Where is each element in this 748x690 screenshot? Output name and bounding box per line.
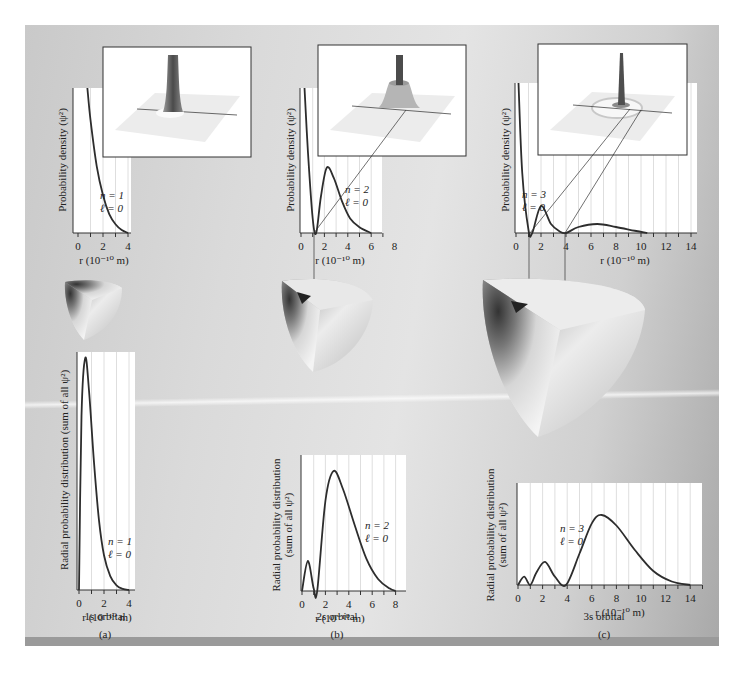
x-tick-label: 6 xyxy=(369,598,375,610)
quantum-number-n: n = 3 xyxy=(522,188,546,200)
quantum-number-l: ℓ = 0 xyxy=(345,196,369,208)
x-tick-label: 10 xyxy=(636,240,648,252)
y-axis-title: (sum of all ψ²) xyxy=(496,503,509,568)
cutaway-sphere-3s xyxy=(483,279,645,437)
y-axis-title: Probability density (ψ²) xyxy=(284,108,297,212)
y-axis-title: Probability density (ψ²) xyxy=(56,108,69,212)
x-tick-label: 6 xyxy=(368,240,374,252)
quantum-number-n: n = 2 xyxy=(365,519,389,531)
x-tick-label: 2 xyxy=(540,592,546,604)
panel-label-b: (b) xyxy=(331,628,344,641)
y-axis-title: (sum of all ψ²) xyxy=(282,493,295,558)
quantum-number-n: n = 2 xyxy=(345,183,369,195)
cutaway-sphere-2s xyxy=(282,279,373,372)
x-axis-title: r (10⁻¹⁰ m) xyxy=(600,254,650,267)
x-tick-label: 4 xyxy=(346,598,352,610)
inset-3d-surface-2s xyxy=(318,45,466,156)
quantum-number-l: ℓ = 0 xyxy=(365,532,389,544)
x-tick-label: 8 xyxy=(614,592,620,604)
y-axis-title: Probability density (ψ²) xyxy=(499,108,512,212)
quantum-number-l: ℓ = 0 xyxy=(108,548,132,560)
x-tick-label: 4 xyxy=(125,240,131,252)
x-tick-label: 6 xyxy=(589,592,595,604)
x-tick-label: 0 xyxy=(513,240,519,252)
x-tick-label: 0 xyxy=(299,598,305,610)
x-tick-label: 10 xyxy=(636,592,648,604)
x-tick-label: 8 xyxy=(392,240,398,252)
x-tick-label: 8 xyxy=(613,240,619,252)
x-axis-title: r (10⁻¹⁰ m) xyxy=(79,254,129,267)
x-tick-label: 4 xyxy=(126,597,132,609)
orbital-figure: 024r (10⁻¹⁰ m)Probability density (ψ²)n … xyxy=(0,0,748,690)
radial-plot-2s: 02468r (10⁻¹⁰ m)Radial probability distr… xyxy=(270,455,406,625)
y-axis-title: Radial probability distribution xyxy=(270,458,282,592)
quantum-number-n: n = 1 xyxy=(108,535,132,547)
x-tick-label: 6 xyxy=(588,240,594,252)
orbital-caption-1s: 1s orbital xyxy=(84,610,125,622)
orbital-caption-2s: 2s orbital xyxy=(316,610,357,622)
x-tick-label: 8 xyxy=(393,598,399,610)
x-tick-label: 14 xyxy=(685,592,697,604)
x-tick-label: 4 xyxy=(563,240,569,252)
x-tick-label: 0 xyxy=(76,597,82,609)
y-axis-title: Radial probability distribution xyxy=(484,468,496,602)
cutaway-sphere-1s xyxy=(65,280,122,340)
x-tick-label: 4 xyxy=(564,592,570,604)
x-tick-label: 2 xyxy=(538,240,544,252)
x-tick-label: 2 xyxy=(323,598,329,610)
x-tick-label: 2 xyxy=(322,240,328,252)
quantum-number-n: n = 1 xyxy=(100,189,124,201)
radial-plot-1s: 024r (10⁻¹⁰ m)Radial probability distrib… xyxy=(58,352,135,624)
x-tick-label: 2 xyxy=(100,240,106,252)
x-axis-title: r (10⁻¹⁰ m) xyxy=(315,254,365,267)
orbital-caption-3s: 3s orbital xyxy=(583,610,624,622)
panel-label-a: (a) xyxy=(99,628,112,641)
inset-3d-surface-3s xyxy=(538,44,687,155)
quantum-number-l: ℓ = 0 xyxy=(100,202,124,214)
x-tick-label: 14 xyxy=(686,240,698,252)
x-tick-label: 4 xyxy=(345,240,351,252)
radial-plot-3s: 02468101214r (10⁻¹⁰ m)Radial probability… xyxy=(484,468,703,619)
y-axis-title: Radial probability distribution (sum of … xyxy=(58,370,71,571)
x-tick-label: 0 xyxy=(75,240,81,252)
x-tick-label: 12 xyxy=(660,592,671,604)
inset-3d-surface-1s xyxy=(103,47,251,157)
quantum-number-n: n = 3 xyxy=(560,522,584,534)
x-tick-label: 0 xyxy=(515,592,521,604)
panel-label-c: (c) xyxy=(598,628,611,641)
quantum-number-l: ℓ = 0 xyxy=(522,201,546,213)
x-tick-label: 12 xyxy=(661,240,672,252)
quantum-number-l: ℓ = 0 xyxy=(560,535,584,547)
x-tick-label: 2 xyxy=(101,597,107,609)
x-tick-label: 0 xyxy=(298,240,304,252)
